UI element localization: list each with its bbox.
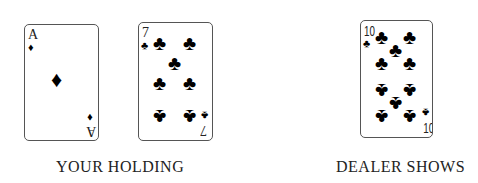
club-icon: ♣ bbox=[375, 107, 388, 127]
club-icon: ♣ bbox=[389, 94, 402, 114]
club-icon: ♣ bbox=[153, 33, 166, 53]
diamond-icon: ♦ bbox=[87, 112, 93, 123]
club-icon: ♣ bbox=[183, 73, 196, 93]
club-icon: ♣ bbox=[422, 107, 429, 118]
card-ace-of-diamonds: A ♦ ♦ ♦ A bbox=[24, 24, 99, 141]
club-icon: ♣ bbox=[375, 53, 388, 73]
club-icon: ♣ bbox=[363, 38, 370, 49]
club-icon: ♣ bbox=[375, 27, 388, 47]
dealer-shows-label: DEALER SHOWS bbox=[336, 158, 465, 176]
club-icon: ♣ bbox=[403, 53, 416, 73]
diamond-icon: ♦ bbox=[28, 42, 34, 53]
club-icon: ♣ bbox=[183, 33, 196, 53]
club-icon: ♣ bbox=[201, 110, 208, 121]
diamond-icon: ♦ bbox=[51, 69, 62, 91]
card-rank: 10 bbox=[364, 24, 375, 38]
card-rank: 7 bbox=[200, 123, 207, 137]
card-rank: A bbox=[28, 28, 38, 42]
club-icon: ♣ bbox=[141, 40, 148, 51]
your-holding-label: YOUR HOLDING bbox=[56, 158, 184, 176]
card-rank: 10 bbox=[423, 121, 433, 135]
club-icon: ♣ bbox=[153, 107, 166, 127]
card-seven-of-clubs: 7 ♣ ♣ ♣ ♣ ♣ ♣ ♣ ♣ ♣ 7 bbox=[138, 22, 213, 141]
club-icon: ♣ bbox=[403, 107, 416, 127]
club-icon: ♣ bbox=[168, 53, 181, 73]
club-icon: ♣ bbox=[375, 81, 388, 101]
card-rank: 7 bbox=[142, 26, 149, 40]
club-icon: ♣ bbox=[389, 40, 402, 60]
club-icon: ♣ bbox=[403, 81, 416, 101]
club-icon: ♣ bbox=[183, 107, 196, 127]
club-icon: ♣ bbox=[153, 73, 166, 93]
club-icon: ♣ bbox=[403, 27, 416, 47]
card-rank: A bbox=[86, 124, 96, 138]
card-ten-of-clubs: 10 ♣ ♣ ♣ ♣ ♣ ♣ ♣ ♣ ♣ ♣ ♣ ♣ 10 bbox=[360, 20, 433, 138]
